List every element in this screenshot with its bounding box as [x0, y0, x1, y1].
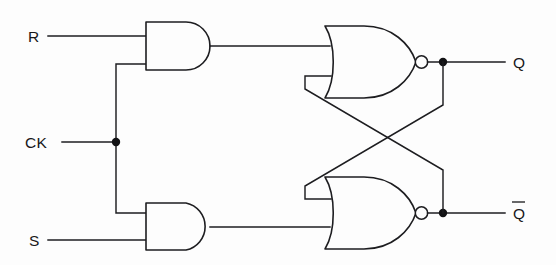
label-input-r: R — [28, 28, 40, 45]
label-input-s: S — [29, 232, 40, 249]
nor-bottom-inversion-bubble — [415, 207, 427, 219]
logic-diagram-canvas: R CK S Q Q — [0, 0, 556, 265]
wire-ck-branch-bottom — [116, 142, 146, 213]
wire-ck-branch-top — [116, 64, 146, 142]
nor-gate-top — [325, 26, 416, 98]
and-gate-bottom — [146, 203, 205, 250]
nor-gate-bottom — [325, 177, 416, 249]
nor-top-inversion-bubble — [415, 56, 427, 68]
circuit-svg: R CK S Q Q — [0, 0, 556, 265]
label-output-qbar: Q — [513, 205, 525, 222]
and-gate-top — [146, 22, 210, 70]
ck-junction-dot — [112, 138, 120, 146]
label-output-q: Q — [513, 54, 525, 71]
label-input-ck: CK — [25, 134, 48, 151]
